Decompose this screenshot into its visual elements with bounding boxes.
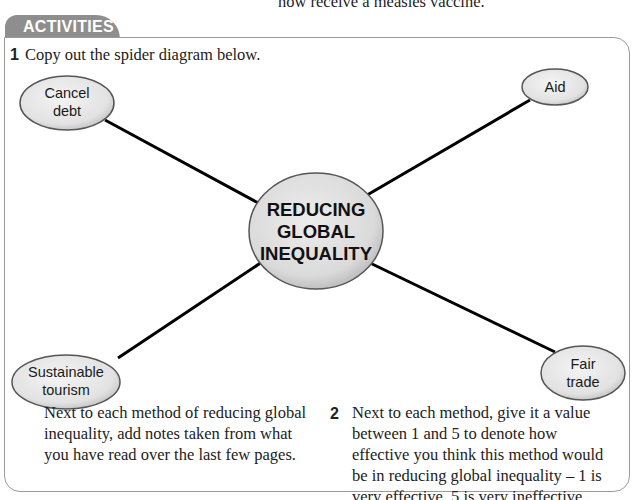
- connector-aid: [362, 100, 530, 198]
- node-label-line: debt: [44, 102, 89, 120]
- node-label-aid: Aid: [545, 78, 566, 96]
- node-label-line: Fair: [566, 355, 599, 373]
- node-label-fair-trade: Fair trade: [566, 355, 599, 391]
- center-label-line: GLOBAL: [260, 221, 372, 243]
- node-label-line: tourism: [28, 381, 104, 399]
- node-label-line: Aid: [545, 78, 566, 96]
- notes-instruction: Next to each method of reducing global i…: [44, 402, 314, 465]
- question-2-text: Next to each method, give it a value bet…: [352, 403, 603, 500]
- question-2: 2 Next to each method, give it a value b…: [330, 402, 615, 500]
- connector-sustainable-tourism: [118, 262, 262, 358]
- node-label-cancel-debt: Cancel debt: [44, 84, 89, 120]
- connector-fair-trade: [368, 262, 555, 352]
- node-label-line: Cancel: [44, 84, 89, 102]
- question-2-number: 2: [330, 403, 339, 424]
- node-label-sustainable-tourism: Sustainable tourism: [28, 363, 104, 399]
- center-label-line: REDUCING: [260, 199, 372, 221]
- node-label-center: REDUCING GLOBAL INEQUALITY: [260, 199, 372, 265]
- node-label-line: Sustainable: [28, 363, 104, 381]
- connector-cancel-debt: [105, 120, 262, 205]
- center-label-line: INEQUALITY: [260, 243, 372, 265]
- node-label-line: trade: [566, 373, 599, 391]
